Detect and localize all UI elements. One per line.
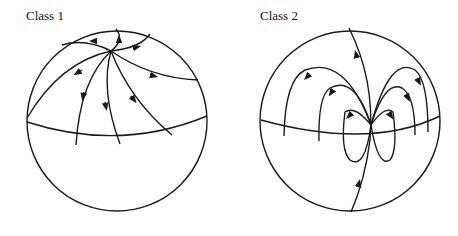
class-1-sphere	[27, 29, 207, 211]
class-2-sphere	[260, 28, 440, 212]
phase-portrait-diagrams	[0, 0, 458, 236]
